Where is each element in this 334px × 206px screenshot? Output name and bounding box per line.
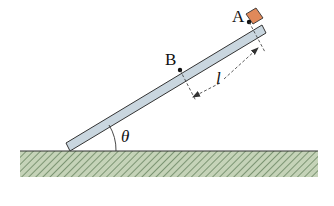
label-angle: θ xyxy=(121,128,129,145)
label-length: l xyxy=(216,70,221,87)
ground xyxy=(20,151,318,177)
diagram-svg xyxy=(0,0,334,206)
plank xyxy=(66,25,266,151)
diagram-canvas: A B l θ xyxy=(0,0,334,206)
label-a: A xyxy=(232,8,244,25)
angle-arc xyxy=(109,125,116,151)
label-b: B xyxy=(165,51,176,68)
